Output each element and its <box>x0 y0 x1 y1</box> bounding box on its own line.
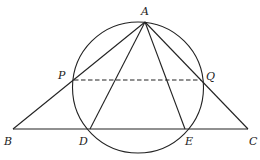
label-D: D <box>78 135 88 148</box>
label-E: E <box>184 135 193 148</box>
segment-AE <box>145 22 185 129</box>
label-B: B <box>3 135 12 148</box>
circumcircle <box>73 22 204 153</box>
label-P: P <box>57 69 66 82</box>
segment-AD <box>90 22 145 129</box>
segment-AC <box>145 22 248 129</box>
label-A: A <box>140 5 149 18</box>
segment-AB <box>13 22 145 129</box>
label-C: C <box>249 135 258 148</box>
geometry-diagram: A B C D E P Q <box>0 0 260 160</box>
labels-group: A B C D E P Q <box>3 5 258 148</box>
label-Q: Q <box>206 70 215 83</box>
